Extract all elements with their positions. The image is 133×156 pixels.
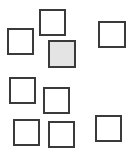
square bbox=[7, 28, 34, 55]
square bbox=[39, 9, 66, 36]
square bbox=[98, 21, 126, 48]
highlighted-square bbox=[48, 40, 76, 68]
square bbox=[9, 77, 36, 104]
square bbox=[48, 121, 75, 148]
square bbox=[43, 87, 70, 114]
square bbox=[95, 115, 122, 142]
square bbox=[13, 119, 40, 146]
